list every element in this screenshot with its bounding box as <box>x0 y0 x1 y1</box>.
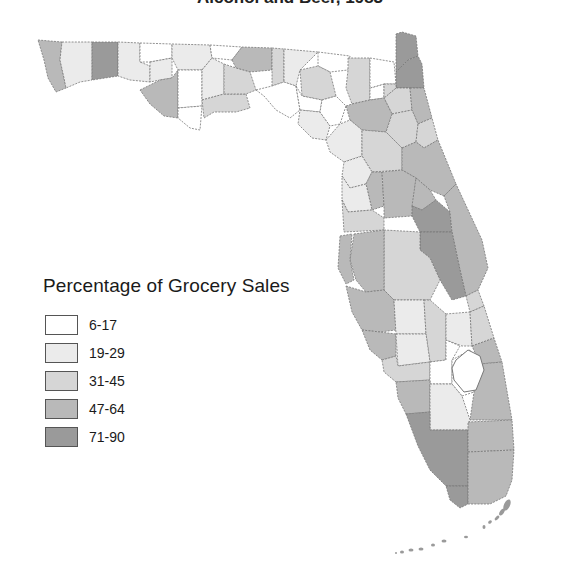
south-counties <box>346 286 514 508</box>
county-lake <box>382 170 416 218</box>
legend-label: 71-90 <box>89 429 125 445</box>
county-okeechobee <box>446 312 472 346</box>
legend-label: 6-17 <box>89 317 117 333</box>
county-levy <box>326 120 362 162</box>
legend-item: 71-90 <box>45 423 290 451</box>
legend-label: 31-45 <box>89 373 125 389</box>
county-gulf <box>178 106 202 130</box>
legend-item: 6-17 <box>45 311 290 339</box>
legend-item: 47-64 <box>45 395 290 423</box>
county-hardee <box>394 300 426 334</box>
legend-swatch <box>45 315 78 335</box>
county-baker <box>370 58 396 88</box>
county-hillsborough <box>350 230 384 292</box>
county-jefferson <box>272 48 284 86</box>
legend-swatch <box>45 371 78 391</box>
legend: Percentage of Grocery Sales 6-17 19-29 3… <box>45 275 290 451</box>
county-sarasota <box>362 330 396 360</box>
legend-item: 31-45 <box>45 367 290 395</box>
legend-item: 19-29 <box>45 339 290 367</box>
legend-swatch <box>45 427 78 447</box>
county-lee <box>396 380 430 414</box>
county-okaloosa <box>92 42 118 80</box>
legend-label: 47-64 <box>89 401 125 417</box>
county-broward <box>468 420 514 452</box>
county-santa-rosa <box>60 42 92 88</box>
legend-swatch <box>45 343 78 363</box>
county-taylor <box>256 82 300 118</box>
county-washington <box>150 58 172 82</box>
central-counties <box>338 156 488 312</box>
county-columbia <box>346 58 370 104</box>
legend-label: 19-29 <box>89 345 125 361</box>
county-dade <box>468 450 514 504</box>
legend-title: Percentage of Grocery Sales <box>43 275 290 297</box>
florida-keys <box>395 498 512 554</box>
county-desoto <box>396 334 430 366</box>
county-monroe-mainland <box>446 486 468 508</box>
legend-swatch <box>45 399 78 419</box>
county-calhoun <box>178 70 202 108</box>
